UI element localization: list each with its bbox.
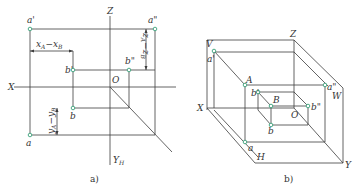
label-a-double-prime: a" — [148, 15, 158, 25]
diagram-b: V Z a' A a" W b' B b" O X b a H Y b) — [196, 29, 352, 184]
label-b-prime: b' — [65, 65, 73, 75]
label-x-axis: X — [196, 103, 204, 113]
45-degree-line — [110, 87, 172, 152]
label-w-plane: W — [332, 91, 342, 101]
point-b-double-prime — [127, 68, 131, 72]
label-a-prime: a' — [27, 15, 35, 25]
point-a-double-prime — [153, 27, 157, 31]
label-b-double-prime: b" — [125, 56, 135, 66]
y-dimension-label: yA−yB — [46, 107, 57, 135]
point-a-prime — [28, 27, 32, 31]
label-origin: O — [112, 75, 120, 85]
point-a — [243, 140, 247, 144]
point-a — [28, 133, 32, 137]
label-a: a — [248, 143, 253, 153]
point-a-prime — [212, 49, 216, 53]
a-to-v-projector — [214, 51, 245, 85]
arrow-right-icon — [69, 50, 73, 53]
label-b-double-prime: b" — [311, 102, 321, 112]
b-h-diagonal — [258, 110, 271, 125]
point-b — [71, 106, 75, 110]
label-b-prime: b' — [251, 88, 259, 98]
caption-a: a) — [90, 174, 99, 184]
h-plane-outer-edge — [207, 108, 343, 163]
label-b: b — [70, 111, 76, 121]
label-z-axis: Z — [289, 29, 297, 39]
label-a-prime: a' — [207, 54, 215, 64]
diagram-a: xA−xB zA−zB yA−yB a' a" b' b" b a X Z O — [7, 6, 176, 184]
label-y-axis: Y — [345, 160, 352, 170]
point-b-double-prime — [306, 104, 310, 108]
arrow-left-icon — [30, 50, 34, 53]
b-prime-to-b — [258, 92, 271, 106]
caption-b: b) — [284, 174, 293, 184]
z-dimension-label: zA−zB — [140, 32, 151, 59]
v-plane-inner-edge — [214, 52, 294, 108]
label-v-plane: V — [206, 39, 214, 49]
label-a: a — [26, 138, 31, 148]
b-w-diagonal — [294, 92, 308, 106]
label-origin: O — [291, 110, 299, 120]
x-dimension-label: xA−xB — [36, 39, 63, 50]
label-yh-axis: YH — [113, 155, 125, 166]
y-axis-line — [294, 108, 343, 163]
label-A: A — [245, 75, 253, 85]
projection-figure: xA−xB zA−zB yA−yB a' a" b' b" b a X Z O — [0, 0, 361, 186]
label-h-plane: H — [256, 152, 265, 162]
label-B: B — [272, 95, 280, 105]
arrow-down-icon — [145, 66, 148, 70]
label-z-axis: Z — [106, 6, 114, 16]
label-b: b — [268, 126, 274, 136]
label-x-axis: X — [7, 82, 15, 92]
